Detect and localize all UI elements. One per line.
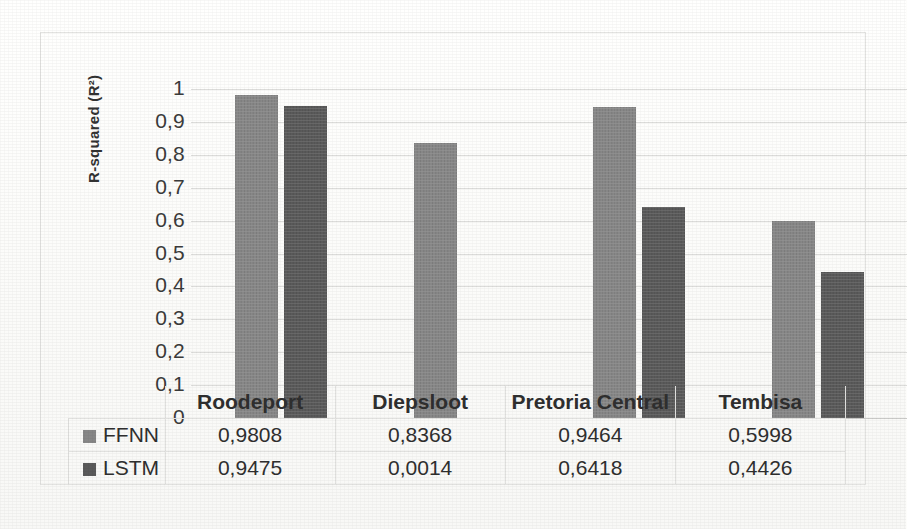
- table-row: LSTM0,94750,00140,64180,4426: [69, 452, 846, 485]
- table-corner-cell: [69, 386, 166, 419]
- table-cell-lstm-diepsloot: 0,0014: [335, 452, 505, 485]
- table-column-header-roodeport: Roodeport: [165, 386, 335, 419]
- y-axis-tick-label: 0,2: [119, 339, 185, 363]
- gridline: [191, 89, 907, 90]
- bar-ffnn-pretoria-central: [593, 107, 636, 418]
- y-axis-tick-label: 1: [119, 76, 185, 100]
- y-axis-tick-label: 0,5: [119, 241, 185, 265]
- bar-ffnn-diepsloot: [414, 143, 457, 418]
- table-column-header-tembisa: Tembisa: [675, 386, 845, 419]
- y-axis-tick-label: 0,6: [119, 208, 185, 232]
- legend-item-ffnn[interactable]: FFNN: [69, 419, 166, 452]
- chart-data-table: RoodeportDiepslootPretoria CentralTembis…: [68, 386, 846, 484]
- bar-ffnn-roodeport: [235, 95, 278, 418]
- y-axis-tick-label: 0,3: [119, 306, 185, 330]
- legend-swatch-ffnn-icon: [83, 430, 96, 443]
- table-cell-ffnn-roodeport: 0,9808: [165, 419, 335, 452]
- y-axis-tick-label: 0,9: [119, 109, 185, 133]
- plot-area: [191, 89, 907, 418]
- data-table: RoodeportDiepslootPretoria CentralTembis…: [68, 386, 846, 485]
- table-cell-lstm-tembisa: 0,4426: [675, 452, 845, 485]
- table-header-row: RoodeportDiepslootPretoria CentralTembis…: [69, 386, 846, 419]
- y-axis-title: R-squared (R²): [85, 3, 102, 183]
- y-axis-tick-label: 0,4: [119, 273, 185, 297]
- y-axis-tick-label: 0,8: [119, 142, 185, 166]
- legend-item-lstm[interactable]: LSTM: [69, 452, 166, 485]
- legend-label: LSTM: [103, 456, 159, 479]
- table-cell-lstm-pretoria-central: 0,6418: [505, 452, 675, 485]
- bar-lstm-roodeport: [284, 106, 327, 418]
- table-column-header-diepsloot: Diepsloot: [335, 386, 505, 419]
- table-cell-ffnn-diepsloot: 0,8368: [335, 419, 505, 452]
- table-row: FFNN0,98080,83680,94640,5998: [69, 419, 846, 452]
- y-axis-tick-label: 0,7: [119, 175, 185, 199]
- table-cell-ffnn-pretoria-central: 0,9464: [505, 419, 675, 452]
- table-column-header-pretoria-central: Pretoria Central: [505, 386, 675, 419]
- y-axis-tick-labels: 10,90,80,70,60,50,40,30,20,10: [115, 89, 185, 418]
- table-cell-ffnn-tembisa: 0,5998: [675, 419, 845, 452]
- table-cell-lstm-roodeport: 0,9475: [165, 452, 335, 485]
- legend-label: FFNN: [103, 423, 159, 446]
- legend-swatch-lstm-icon: [83, 463, 96, 476]
